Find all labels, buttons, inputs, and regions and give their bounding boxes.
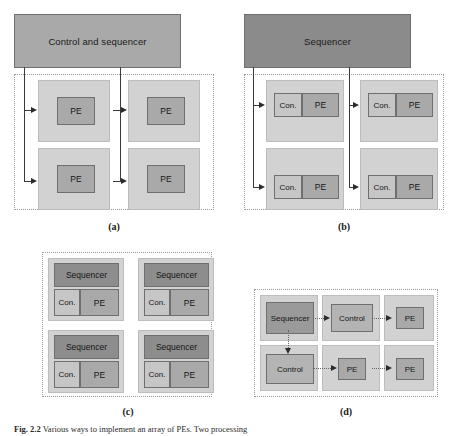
panel-d-control-2: Control <box>266 354 314 384</box>
panel-d-link-pe2-pe3 <box>372 368 387 369</box>
panel-c-cell-1-con: Con. <box>54 289 80 316</box>
panel-d-arrow-pe2-pe3 <box>386 365 392 371</box>
panel-b-module-3: Con. PE <box>266 148 344 210</box>
panel-b-pe-4-label: PE <box>409 182 420 192</box>
panel-a-pe-4: PE <box>147 165 185 193</box>
panel-a-module-3: PE <box>38 148 110 210</box>
panel-c-cell-3-pe: PE <box>80 361 119 388</box>
panel-b-pe-2-label: PE <box>409 100 420 110</box>
panel-b-bus-left-vertical <box>253 67 254 187</box>
panel-d-arrow-control2-pe2 <box>331 365 337 371</box>
panel-a-pe-2-label: PE <box>160 106 171 116</box>
panel-b-sublabel: (b) <box>324 221 364 232</box>
panel-a-bus-left-vertical <box>24 67 25 182</box>
panel-a-arrow-right-bottom <box>121 178 127 184</box>
panel-d-control-1-label: Control <box>339 314 365 323</box>
panel-b-arrow-left-bottom <box>259 184 265 190</box>
panel-d-pe-2: PE <box>338 358 366 380</box>
panel-c-cell-4-con: Con. <box>144 361 170 388</box>
panel-b-pe-3-label: PE <box>315 182 326 192</box>
panel-d-control-1: Control <box>331 304 373 332</box>
panel-c-cell-3-con-label: Con. <box>59 370 76 379</box>
panel-c-cell-2-con: Con. <box>144 289 170 316</box>
figure-caption-number: Fig. 2.2 <box>14 424 41 434</box>
panel-d-pe-3: PE <box>396 358 424 380</box>
panel-c-cell-1-pe-label: PE <box>94 298 105 308</box>
panel-b-module-2: Con. PE <box>360 80 438 142</box>
panel-c-cell-1-sequencer: Sequencer <box>54 263 119 287</box>
panel-b-module-4: Con. PE <box>360 148 438 210</box>
panel-c-cell-4-pe: PE <box>170 361 209 388</box>
panel-b-sequencer-bar: Sequencer <box>244 14 411 68</box>
panel-b-con-1: Con. <box>274 93 302 117</box>
panel-c-cell-2-sequencer: Sequencer <box>144 263 209 287</box>
panel-c-cell-2-con-label: Con. <box>149 298 166 307</box>
panel-a-pe-1-label: PE <box>70 106 81 116</box>
panel-c-cell-3: Sequencer Con. PE <box>48 330 124 393</box>
panel-a-arrow-left-top <box>31 107 37 113</box>
panel-c-cell-1-sequencer-label: Sequencer <box>66 270 107 280</box>
panel-d-pe-1: PE <box>396 307 424 329</box>
panel-a-module-2: PE <box>128 80 200 142</box>
panel-a-arrow-left-bottom <box>31 178 37 184</box>
panel-d-link-control-pe <box>372 318 387 319</box>
panel-d-sequencer: Sequencer <box>266 302 314 334</box>
panel-b-arrow-left-top <box>259 102 265 108</box>
panel-b-bus-right-vertical <box>349 67 350 187</box>
panel-c-cell-1-pe: PE <box>80 289 119 316</box>
panel-c-sublabel: (c) <box>108 406 148 417</box>
panel-d-cell-1: Sequencer <box>260 295 318 341</box>
panel-c-cell-1-con-label: Con. <box>59 298 76 307</box>
panel-d-pe-1-label: PE <box>405 314 416 323</box>
panel-a-pe-2: PE <box>147 97 185 125</box>
panel-d-pe-3-label: PE <box>405 365 416 374</box>
panel-c-cell-4-pe-label: PE <box>184 370 195 380</box>
figure-2-2: Control and sequencer PE PE PE PE <box>0 0 460 436</box>
panel-b-sequencer-label: Sequencer <box>304 36 351 47</box>
panel-c-cell-4-sequencer-label: Sequencer <box>156 342 197 352</box>
panel-d-link-seq-control-vertical <box>288 330 289 350</box>
panel-b-con-3: Con. <box>274 175 302 199</box>
panel-b-arrow-right-bottom <box>353 184 359 190</box>
figure-caption-text: Various ways to implement an array of PE… <box>43 424 248 434</box>
panel-a-module-1: PE <box>38 80 110 142</box>
panel-b-pe-1: PE <box>302 93 339 117</box>
panel-d-arrow-seq-control <box>324 315 330 321</box>
panel-b-con-4-label: Con. <box>374 183 391 192</box>
panel-c-cell-3-pe-label: PE <box>94 370 105 380</box>
panel-c-cell-2-pe-label: PE <box>184 298 195 308</box>
panel-c-cell-2: Sequencer Con. PE <box>138 258 214 321</box>
panel-b-pe-2: PE <box>396 93 433 117</box>
panel-b-pe-1-label: PE <box>315 100 326 110</box>
panel-a-bus-right-vertical <box>120 67 121 182</box>
panel-a-pe-3-label: PE <box>70 174 81 184</box>
panel-c-cell-4-con-label: Con. <box>149 370 166 379</box>
panel-b-con-2-label: Con. <box>374 101 391 110</box>
panel-d-pe-2-label: PE <box>347 365 358 374</box>
panel-d-sequencer-label: Sequencer <box>271 314 310 323</box>
panel-d-control-2-label: Control <box>277 365 303 374</box>
figure-caption: Fig. 2.2 Various ways to implement an ar… <box>14 424 454 434</box>
panel-b-pe-4: PE <box>396 175 433 199</box>
panel-a-module-4: PE <box>128 148 200 210</box>
panel-c-cell-1: Sequencer Con. PE <box>48 258 124 321</box>
panel-c-cell-4-sequencer: Sequencer <box>144 335 209 359</box>
panel-a-sublabel: (a) <box>94 221 134 232</box>
panel-d-link-control2-pe2 <box>313 368 333 369</box>
panel-a-pe-3: PE <box>57 165 95 193</box>
panel-d-arrow-seq-control-down <box>285 348 291 354</box>
panel-b-con-3-label: Con. <box>280 183 297 192</box>
panel-c-cell-4: Sequencer Con. PE <box>138 330 214 393</box>
panel-a-pe-4-label: PE <box>160 174 171 184</box>
panel-c-cell-2-sequencer-label: Sequencer <box>156 270 197 280</box>
panel-a-control-sequencer-bar: Control and sequencer <box>14 14 181 68</box>
panel-b-module-1: Con. PE <box>266 80 344 142</box>
panel-a-pe-1: PE <box>57 97 95 125</box>
panel-b-arrow-right-top <box>353 102 359 108</box>
panel-c-cell-3-con: Con. <box>54 361 80 388</box>
panel-a-control-sequencer-label: Control and sequencer <box>48 36 146 47</box>
panel-b-pe-3: PE <box>302 175 339 199</box>
panel-c-cell-2-pe: PE <box>170 289 209 316</box>
panel-d-sublabel: (d) <box>326 406 366 417</box>
panel-c-cell-3-sequencer-label: Sequencer <box>66 342 107 352</box>
